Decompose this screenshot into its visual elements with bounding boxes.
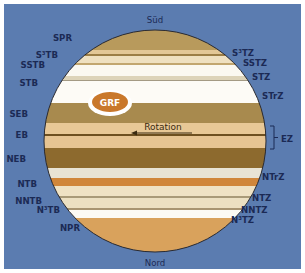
grf-label: GRF — [100, 98, 120, 108]
band-ezn — [40, 136, 270, 148]
band-stb-line — [40, 80, 270, 81]
label-ntb: NTB — [17, 179, 37, 189]
label-eb: EB — [16, 130, 28, 140]
label-stb: STB — [19, 78, 38, 88]
label-neb: NEB — [6, 154, 26, 164]
rotation-label: Rotation — [144, 122, 182, 132]
label-n3tz: N³TZ — [231, 215, 254, 225]
label-ntz: NTZ — [252, 193, 271, 203]
label-n3tb: N³TB — [37, 205, 60, 215]
band-neb — [40, 148, 270, 168]
label-s3tb: S³TB — [36, 50, 58, 60]
band-spr — [40, 28, 270, 50]
label-stz: STZ — [252, 72, 270, 82]
label-strz: STrZ — [262, 91, 284, 101]
south-pole-label: Süd — [147, 15, 163, 25]
label-sstb: SSTB — [21, 60, 45, 70]
band-ntrz — [40, 168, 270, 178]
ez-bracket — [270, 126, 278, 149]
label-npr: NPR — [60, 223, 80, 233]
band-stz — [40, 65, 270, 76]
band-nntb — [40, 196, 270, 198]
band-stb — [40, 76, 270, 80]
band-n3tb — [40, 208, 270, 210]
band-seb — [40, 103, 270, 123]
band-nntz — [40, 198, 270, 208]
jupiter-diagram: GRF Rotation Süd Nord SPRS³TBSSTBSTBSEBE… — [0, 0, 305, 273]
label-s3tz: S³TZ — [232, 48, 254, 58]
north-pole-label: Nord — [145, 258, 166, 268]
label-nntz: NNTZ — [241, 205, 267, 215]
band-strz — [40, 81, 270, 103]
label-sstz: SSTZ — [243, 58, 267, 68]
label-seb: SEB — [9, 109, 28, 119]
band-ntz — [40, 186, 270, 196]
band-eb — [40, 134, 270, 136]
label-spr: SPR — [53, 33, 72, 43]
band-ntb — [40, 178, 270, 186]
label-ntrz: NTrZ — [262, 172, 285, 182]
label-ez: EZ — [281, 134, 293, 144]
